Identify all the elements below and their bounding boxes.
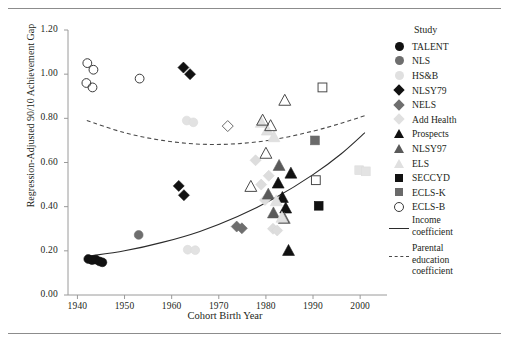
data-point-nlsy97: [268, 207, 280, 218]
data-point-open-triangles: [279, 94, 291, 105]
data-point-ecls-b: [88, 83, 97, 92]
legend-curve-label-line: coefficient: [412, 265, 453, 276]
legend-curve-label-line: Income: [412, 214, 453, 225]
legend-item-label: NLSY97: [412, 143, 447, 154]
triangle-marker-icon: [386, 159, 412, 168]
scatter-chart-figure: Regression-Adjusted 90/10 Achievement Ga…: [0, 0, 509, 350]
legend-item-label: NELS: [412, 99, 436, 110]
chart-legend: Study TALENTNLSHS&BNLSY79NELSAdd HealthP…: [386, 24, 506, 276]
data-point-nlsy97: [262, 188, 274, 199]
data-point-ecls-b: [135, 74, 144, 83]
legend-item-talent[interactable]: TALENT: [386, 39, 506, 54]
y-tick-label: 0.00: [18, 289, 58, 299]
x-tick-label: 1980: [246, 301, 286, 311]
legend-item-label: SECCYD: [412, 172, 450, 183]
legend-curve-item-1[interactable]: Parentaleducationcoefficient: [386, 242, 506, 276]
legend-item-prospects[interactable]: Prospects: [386, 127, 506, 142]
legend-item-label: ECLS-B: [412, 201, 445, 212]
diamond-marker-icon: [386, 101, 412, 109]
legend-item-seccyd[interactable]: SECCYD: [386, 170, 506, 185]
circle-marker-icon: [386, 42, 412, 51]
x-tick-label: 2000: [340, 301, 380, 311]
data-point-nlsy79: [178, 190, 189, 201]
legend-item-label: NLS: [412, 55, 430, 66]
legend-item-label: HS&B: [412, 70, 438, 81]
legend-item-nlsy79[interactable]: NLSY79: [386, 83, 506, 98]
dashed-line-icon: [386, 242, 412, 270]
data-point-nlsy97: [273, 159, 285, 170]
legend-item-nels[interactable]: NELS: [386, 97, 506, 112]
legend-item-els[interactable]: ELS: [386, 156, 506, 171]
triangle-marker-icon: [386, 129, 412, 138]
legend-curve-item-0[interactable]: Incomecoefficient: [386, 214, 506, 242]
data-point-open-triangles: [260, 147, 272, 158]
data-point-prospects: [285, 167, 297, 178]
legend-title: Study: [414, 24, 506, 35]
data-point-nls: [134, 231, 143, 240]
y-tick-label: 0.60: [18, 157, 58, 167]
data-point-add-health: [256, 179, 267, 190]
data-point-hs-b: [191, 246, 200, 255]
legend-item-nlsy97[interactable]: NLSY97: [386, 141, 506, 156]
data-point-prospects: [272, 177, 284, 188]
legend-item-nls[interactable]: NLS: [386, 54, 506, 69]
y-tick-label: 1.00: [18, 68, 58, 78]
legend-curve-label-line: education: [412, 254, 453, 265]
solid-line-icon: [386, 214, 412, 242]
data-point-open-squares: [318, 83, 327, 92]
legend-item-label: Prospects: [412, 128, 449, 139]
circle-marker-icon: [386, 71, 412, 80]
data-point-hs-b: [189, 118, 198, 127]
data-point-prospects: [280, 202, 292, 213]
y-tick-label: 0.40: [18, 201, 58, 211]
legend-item-label: TALENT: [412, 41, 449, 52]
data-point-add-health: [263, 170, 274, 181]
x-tick-label: 1970: [199, 301, 239, 311]
x-tick-label: 1950: [105, 301, 145, 311]
y-tick-label: 0.20: [18, 245, 58, 255]
legend-curve-label-line: coefficient: [412, 226, 453, 237]
legend-item-ecls-k[interactable]: ECLS-K: [386, 185, 506, 200]
diamond-marker-icon: [386, 86, 412, 94]
legend-item-label: ELS: [412, 158, 429, 169]
x-tick-label: 1960: [152, 301, 192, 311]
data-point-ecls-b: [89, 65, 98, 74]
legend-item-add-health[interactable]: Add Health: [386, 112, 506, 127]
x-tick-label: 1990: [293, 301, 333, 311]
data-point-pale-squares: [361, 167, 370, 176]
square-marker-icon: [386, 174, 412, 182]
data-point-prospects: [283, 244, 295, 255]
diamond-marker-icon: [386, 115, 412, 123]
data-point-talent: [98, 258, 107, 267]
data-point-seccyd: [314, 201, 323, 210]
legend-item-label: ECLS-K: [412, 187, 446, 198]
y-tick-label: 1.20: [18, 24, 58, 34]
x-tick-label: 1940: [57, 301, 97, 311]
data-point-open-diamond: [222, 121, 233, 132]
legend-item-hs-b[interactable]: HS&B: [386, 68, 506, 83]
legend-item-label: NLSY79: [412, 85, 447, 96]
x-axis-label: Cohort Birth Year: [60, 310, 390, 321]
square-marker-icon: [386, 188, 412, 196]
data-point-ecls-b: [82, 79, 91, 88]
data-point-open-triangles: [245, 180, 257, 191]
data-point-ecls-k: [311, 136, 320, 145]
data-point-add-health: [250, 155, 261, 166]
legend-curve-label-line: Parental: [412, 242, 453, 253]
circle-marker-icon: [386, 56, 412, 65]
triangle-marker-icon: [386, 144, 412, 153]
trend-curve-income-coefficient: [87, 133, 365, 257]
y-tick-label: 0.80: [18, 112, 58, 122]
legend-item-ecls-b[interactable]: ECLS-B: [386, 200, 506, 215]
legend-item-label: Add Health: [412, 114, 457, 125]
data-point-els: [255, 116, 267, 127]
circle-open-marker-icon: [386, 202, 412, 212]
data-point-nlsy79: [173, 180, 184, 191]
data-point-open-squares: [311, 176, 320, 185]
